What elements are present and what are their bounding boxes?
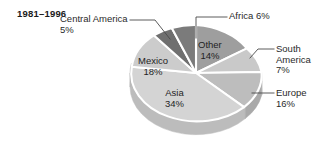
slice-label-asia-value: 34% [165,99,184,110]
slice-label-other-name: Other [198,40,222,51]
callout-central-america-name: Central America [60,14,128,25]
slice-label-mexico-value: 18% [138,67,168,78]
slice-label-asia-name: Asia [165,88,184,99]
callout-africa: Africa 6% [229,11,270,22]
callout-central-america-value: 5% [60,25,128,36]
slice-label-other-value: 14% [198,51,222,62]
callout-africa-text: Africa 6% [229,11,270,22]
callout-south-america-line1: South [276,44,311,55]
callout-europe: Europe 16% [276,88,307,109]
slice-label-other: Other 14% [198,40,222,61]
callout-europe-value: 16% [276,99,307,110]
slice-label-mexico-name: Mexico [138,56,168,67]
slice-label-mexico: Mexico 18% [138,56,168,77]
callout-south-america: South America 7% [276,44,311,76]
callout-central-america: Central America 5% [60,14,128,35]
pie-chart-figure: 1981–1996 [0,0,317,144]
callout-south-america-value: 7% [276,65,311,76]
slice-label-asia: Asia 34% [165,88,184,109]
callout-europe-name: Europe [276,88,307,99]
